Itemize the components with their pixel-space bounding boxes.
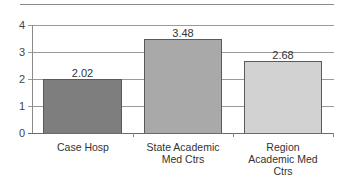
y-tick-label-0: 0 <box>11 127 25 139</box>
category-label-line: Med Ctrs <box>133 153 233 165</box>
y-tick-label-2: 2 <box>11 73 25 85</box>
y-tick-label-3: 3 <box>11 46 25 58</box>
value-label-region-academic-med-ctrs: 2.68 <box>244 49 322 61</box>
category-label-region-academic-med-ctrs: Region Academic Med Ctrs <box>233 141 333 177</box>
x-tick <box>233 133 234 137</box>
bar-case-hosp <box>43 79 122 134</box>
category-label-state-academic-med-ctrs: State Academic Med Ctrs <box>133 141 233 165</box>
category-label-line: Academic Med <box>233 153 333 165</box>
x-axis <box>28 133 334 134</box>
category-label-case-hosp: Case Hosp <box>33 141 133 153</box>
value-label-state-academic-med-ctrs: 3.48 <box>144 27 222 39</box>
bar-region-academic-med-ctrs <box>244 61 322 134</box>
category-label-line: Ctrs <box>233 165 333 177</box>
category-label-line: Region <box>233 141 333 153</box>
y-tick-label-1: 1 <box>11 100 25 112</box>
top-rule <box>20 4 334 5</box>
y-axis <box>32 25 33 134</box>
x-tick <box>133 133 134 137</box>
category-label-line: Case Hosp <box>33 141 133 153</box>
bar-state-academic-med-ctrs <box>144 39 222 134</box>
y-tick-label-4: 4 <box>11 19 25 31</box>
gridline-4 <box>28 25 334 26</box>
x-tick <box>333 133 334 137</box>
category-label-line: State Academic <box>133 141 233 153</box>
value-label-case-hosp: 2.02 <box>43 67 122 79</box>
